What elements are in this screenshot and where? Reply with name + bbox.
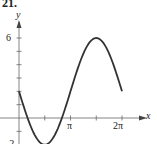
- function-curve: [19, 38, 122, 144]
- plot-area: [0, 0, 157, 144]
